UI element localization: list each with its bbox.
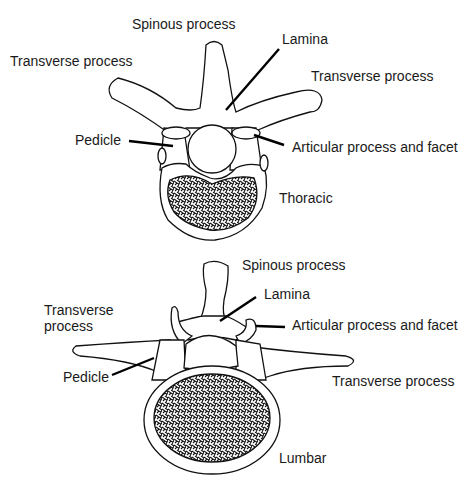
thoracic-vertebral-foramen — [188, 125, 236, 173]
thoracic-posterior-arch — [109, 42, 322, 136]
lumbar-title: Lumbar — [279, 450, 326, 466]
lumbar-spinous-process — [200, 261, 228, 320]
lumbar-vertebra — [73, 261, 354, 474]
lumbar-spinous-process-label: Spinous process — [242, 257, 346, 273]
thoracic-articular-process-label: Articular process and facet — [292, 139, 458, 155]
thoracic-facet-right — [232, 127, 260, 139]
lumbar-transverse-process-left-label: Transverse process — [44, 302, 114, 334]
thoracic-transverse-process-right-label: Transverse process — [311, 68, 433, 84]
thoracic-title: Thoracic — [279, 190, 333, 206]
lumbar-transverse-process-right-label: Transverse process — [332, 373, 454, 389]
lumbar-transverse-left-line2: process — [44, 318, 114, 334]
lumbar-cancellous-bone — [154, 374, 270, 462]
thoracic-transverse-process-left-label: Transverse process — [10, 53, 132, 69]
lumbar-transverse-left-line1: Transverse — [44, 302, 114, 318]
thoracic-facet-left — [162, 127, 190, 139]
thoracic-pedicle-label: Pedicle — [75, 132, 121, 148]
lumbar-lamina-leader — [220, 297, 256, 321]
thoracic-vertebra — [109, 42, 322, 241]
lumbar-articular-process-label: Articular process and facet — [292, 317, 458, 333]
thoracic-lamina-label: Lamina — [282, 31, 328, 47]
thoracic-spinous-process-label: Spinous process — [132, 16, 236, 32]
lumbar-vertebral-foramen — [184, 335, 238, 369]
lumbar-lamina-label: Lamina — [264, 286, 310, 302]
lumbar-articular-leader — [256, 326, 285, 327]
lumbar-pedicle-label: Pedicle — [63, 369, 109, 385]
